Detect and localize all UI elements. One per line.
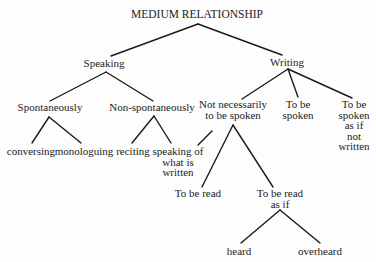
edge-writing-to-to-be-spoken-as-if-not-written <box>288 69 352 98</box>
node-spontaneously: Spontaneously <box>18 101 83 113</box>
node-label-line: Speaking <box>84 57 125 69</box>
edge-spontaneously-to-conversing <box>32 117 49 143</box>
edge-speaking-to-non-spontaneously <box>106 72 153 101</box>
node-label-line: overheard <box>298 245 342 257</box>
node-label-line: monologuing <box>55 145 114 157</box>
edge-to-be-read-as-if-to-heard <box>241 210 280 243</box>
edge-not-necessarily-to-be-spoken-to-speaking-of-what-is-written <box>198 131 212 145</box>
node-reciting: reciting <box>116 145 150 157</box>
node-non-spontaneously: Non-spontaneously <box>109 101 195 113</box>
edge-root-to-speaking <box>111 24 198 56</box>
node-to-be-spoken-as-if-not-written: To bespokenas ifnotwritten <box>338 98 370 152</box>
node-label-line: Non-spontaneously <box>109 101 195 113</box>
tree-canvas: MEDIUM RELATIONSHIPSpeakingWritingSponta… <box>0 0 376 262</box>
edge-not-necessarily-to-be-spoken-to-to-be-read <box>202 125 233 187</box>
edge-writing-to-not-necessarily-to-be-spoken <box>242 69 288 99</box>
nodes-layer: MEDIUM RELATIONSHIPSpeakingWritingSponta… <box>7 8 370 257</box>
node-root: MEDIUM RELATIONSHIP <box>131 8 263 20</box>
node-to-be-spoken: To bespoken <box>282 98 314 121</box>
node-label-line: as if <box>271 198 290 210</box>
edge-speaking-to-spontaneously <box>50 72 106 101</box>
node-to-be-read: To be read <box>175 187 222 199</box>
edge-to-be-read-as-if-to-overheard <box>280 210 320 243</box>
node-speaking: Speaking <box>84 57 125 69</box>
node-heard: heard <box>227 245 252 257</box>
edge-spontaneously-to-monologuing <box>49 117 81 143</box>
node-writing: Writing <box>270 56 304 68</box>
node-label-line: written <box>162 166 194 178</box>
node-monologuing: monologuing <box>55 145 114 157</box>
edge-non-spontaneously-to-reciting <box>132 116 154 143</box>
node-speaking-of-what-is-written: speaking ofwhat iswritten <box>152 145 203 178</box>
node-label-line: spoken <box>282 109 314 121</box>
node-label-line: MEDIUM RELATIONSHIP <box>131 8 263 20</box>
node-label-line: to be spoken <box>205 109 261 121</box>
node-label-line: Writing <box>270 56 304 68</box>
node-label-line: reciting <box>116 145 150 157</box>
node-not-necessarily-to-be-spoken: Not necessarilyto be spoken <box>199 98 268 121</box>
edge-not-necessarily-to-be-spoken-to-to-be-read-as-if <box>233 125 273 187</box>
node-label-line: conversing <box>7 145 56 157</box>
edges-layer <box>32 24 352 243</box>
node-conversing: conversing <box>7 145 56 157</box>
node-label-line: Spontaneously <box>18 101 83 113</box>
node-label-line: written <box>338 140 370 152</box>
medium-relationship-tree: MEDIUM RELATIONSHIPSpeakingWritingSponta… <box>0 0 376 262</box>
node-label-line: To be read <box>175 187 222 199</box>
node-overheard: overheard <box>298 245 342 257</box>
edge-non-spontaneously-to-speaking-of-what-is-written <box>154 116 171 143</box>
node-label-line: heard <box>227 245 252 257</box>
node-to-be-read-as-if: To be readas if <box>257 187 304 210</box>
edge-root-to-writing <box>198 24 282 55</box>
